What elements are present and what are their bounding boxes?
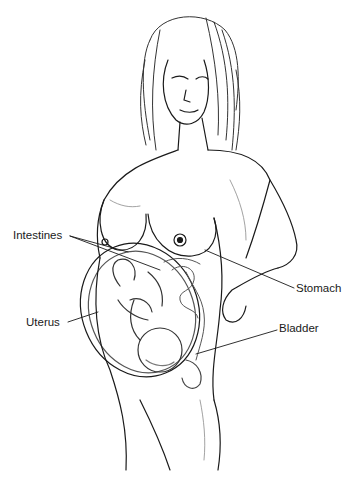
- stomach-leader: [205, 250, 294, 288]
- uterus-cutaway: [61, 225, 219, 395]
- hair-braids: [141, 17, 240, 150]
- anatomy-illustration: Intestines Stomach Uterus Bladder: [0, 0, 354, 489]
- face: [163, 60, 208, 124]
- bladder-shape: [182, 360, 201, 388]
- label-intestines: Intestines: [13, 230, 62, 242]
- figure-drawing: [0, 0, 354, 489]
- label-uterus: Uterus: [26, 317, 60, 329]
- intestines-coils: [164, 258, 204, 360]
- fetus: [113, 259, 182, 372]
- label-bladder: Bladder: [279, 323, 319, 335]
- label-stomach: Stomach: [296, 283, 341, 295]
- bladder-leader: [196, 330, 277, 354]
